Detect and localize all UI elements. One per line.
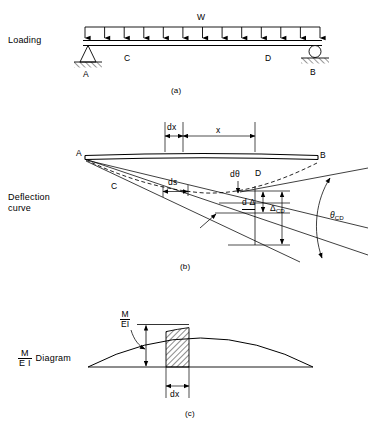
- dim-label-dx-panel-b: dx: [167, 122, 176, 133]
- panel-c-side-label: M E I Diagram: [18, 349, 71, 369]
- mei-curve: [88, 338, 313, 367]
- point-label-d-panel-a: D: [265, 53, 271, 64]
- panel-c-mei: [88, 325, 313, 399]
- figure-root: Loading W A C D B (a) Deflection curve d…: [0, 0, 370, 428]
- panel-b-deflection: [85, 122, 368, 262]
- annotation-d-delta: d Δ: [242, 197, 255, 210]
- mei-strip-label-dx: dx: [170, 389, 179, 400]
- caption-b: (b): [180, 262, 190, 272]
- point-label-c-panel-a: C: [124, 53, 130, 64]
- caption-a: (a): [171, 86, 181, 96]
- tangent-line-c: [88, 160, 368, 255]
- mei-side-suffix: Diagram: [36, 353, 71, 364]
- annotation-theta-cd: θCD: [330, 210, 344, 221]
- delta-cd-subscript: CD: [276, 207, 285, 214]
- dimension-extension-lines: [165, 122, 255, 152]
- mei-strip-hatched: [166, 328, 189, 367]
- tangent-line-d: [88, 161, 368, 229]
- mei-label-leader: [131, 330, 145, 349]
- panel-b-side-label-line1: Deflection: [8, 192, 50, 203]
- panel-a-loading: [74, 27, 329, 68]
- point-label-a-panel-a: A: [83, 69, 89, 80]
- delta-cd-base: Δ: [270, 203, 276, 213]
- load-arrows: [85, 27, 320, 38]
- caption-c: (c): [185, 409, 195, 419]
- mei-side-denominator: E I: [18, 358, 32, 368]
- point-label-a-panel-b: A: [76, 148, 82, 159]
- dim-label-x-panel-b: x: [216, 125, 220, 136]
- pin-support-a: [74, 46, 102, 68]
- beam-a: [83, 41, 322, 46]
- theta-cd-subscript: CD: [335, 214, 344, 221]
- load-label-w: W: [197, 12, 205, 23]
- mei-ordinate-numerator: M: [120, 310, 130, 319]
- point-label-b-panel-b: B: [320, 150, 326, 161]
- dim-label-ds-panel-b: ds: [168, 177, 177, 188]
- point-label-d-panel-b: D: [255, 168, 261, 179]
- annotation-d-theta: dθ: [230, 169, 240, 180]
- mei-side-fraction: M E I: [18, 349, 32, 369]
- mei-ordinate-denominator: EI: [120, 319, 130, 329]
- mei-side-numerator: M: [18, 349, 32, 358]
- beam-b: [85, 154, 318, 160]
- point-label-c-panel-b: C: [111, 181, 117, 192]
- point-label-b-panel-a: B: [310, 67, 316, 78]
- roller-support-b: [301, 46, 329, 64]
- annotation-delta-cd: ΔCD: [270, 203, 285, 214]
- panel-a-side-label: Loading: [8, 35, 41, 46]
- mei-ordinate-label: M EI: [120, 310, 130, 329]
- tangent-line-a: [86, 161, 300, 262]
- mei-ordinate-fraction: M EI: [120, 310, 130, 329]
- panel-b-side-label-line2: curve: [8, 203, 31, 214]
